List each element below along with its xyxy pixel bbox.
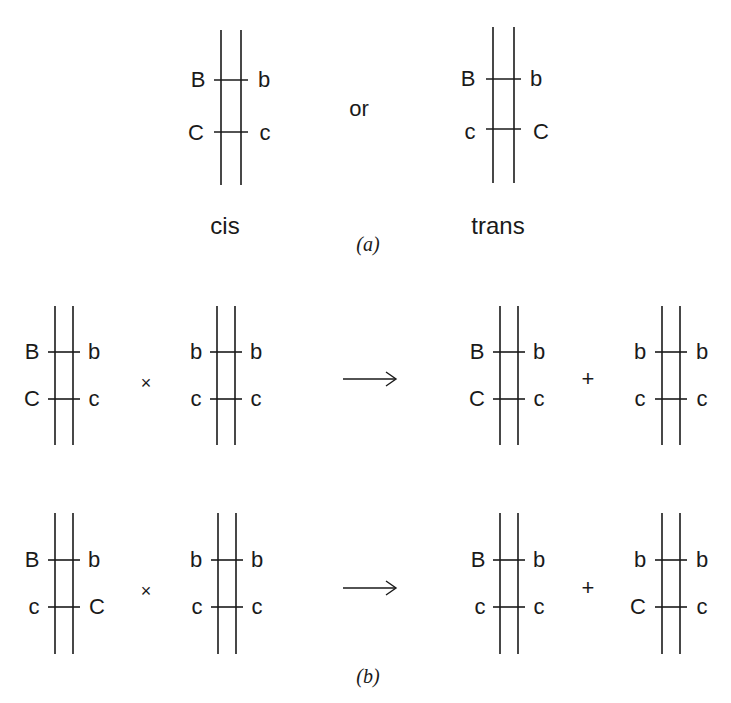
trans-caption: trans [471,212,524,240]
cis-right-bottom: c [260,122,271,144]
r1-o1-right-top: b [533,341,545,363]
r2-o2-left-bottom: C [630,596,646,618]
r2-o1-right-bottom: c [534,596,545,618]
or-connector: or [349,98,369,120]
r2-p2-right-top: b [251,549,263,571]
r2-p2-right-bottom: c [252,596,263,618]
cis-caption: cis [210,212,239,240]
r2-o1-right-top: b [533,549,545,571]
r1-p2-left-top: b [190,341,202,363]
r2-p1-left-top: B [25,549,40,571]
r2-p1-right-bottom: C [89,596,105,618]
r2-p2-left-bottom: c [192,596,203,618]
r1-o2-left-bottom: c [635,388,646,410]
row1-o2-chromosomes [655,306,687,445]
trans-right-bottom: C [533,121,549,143]
r2-p1-left-bottom: c [29,596,40,618]
r1-p1-left-top: B [25,341,40,363]
part-b-label: (b) [356,665,379,688]
r1-o2-left-top: b [634,341,646,363]
r2-o1-left-bottom: c [475,596,486,618]
r1-p2-left-bottom: c [191,388,202,410]
r1-p1-left-bottom: C [24,388,40,410]
r2-plus: + [582,577,595,599]
part-a-label: (a) [356,233,379,256]
r1-o1-left-top: B [470,341,485,363]
r2-p1-right-top: b [88,549,100,571]
r2-o2-right-bottom: c [697,596,708,618]
r1-p1-right-top: b [88,341,100,363]
r2-o2-right-top: b [696,549,708,571]
r2-o1-left-top: B [471,549,486,571]
cis-left-bottom: C [188,122,204,144]
r2-p2-left-top: b [190,549,202,571]
row2-p1-chromosomes [48,513,80,654]
cis-right-top: b [258,69,270,91]
r1-p1-right-bottom: c [89,388,100,410]
row2-o1-chromosomes [493,513,525,654]
r1-plus: + [582,368,595,390]
r1-o1-right-bottom: c [534,388,545,410]
r1-cross: × [141,372,152,394]
trans-right-top: b [530,68,542,90]
r1-p2-right-top: b [250,341,262,363]
trans-left-bottom: c [465,121,476,143]
r1-o1-left-bottom: C [469,388,485,410]
r1-o2-right-top: b [696,341,708,363]
cis-left-top: B [191,69,206,91]
r2-o2-left-top: b [634,549,646,571]
arrow-icon [343,372,396,595]
trans-left-top: B [461,68,476,90]
row1-p2-chromosomes [210,306,242,445]
r2-cross: × [141,580,152,602]
row1-p1-chromosomes [48,306,80,445]
trans-chromosome-pair [486,27,521,183]
row1-o1-chromosomes [493,306,525,445]
row2-o2-chromosomes [655,513,687,654]
r1-p2-right-bottom: c [251,388,262,410]
row2-p2-chromosomes [211,513,243,654]
cis-chromosome-pair [214,30,248,185]
r1-o2-right-bottom: c [697,388,708,410]
